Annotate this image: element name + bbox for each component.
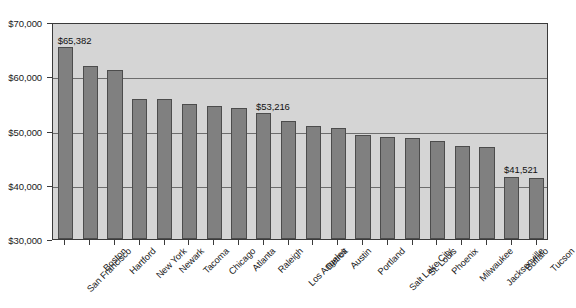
x-axis-tick-label: Hartford [128, 246, 158, 276]
x-axis-tick-mark [387, 240, 388, 245]
y-axis-tick-label: $60,000 [8, 72, 42, 83]
y-axis-tick-mark [47, 240, 52, 241]
bar[interactable] [331, 128, 346, 239]
x-axis-tick-mark [436, 240, 437, 245]
bar[interactable] [380, 137, 395, 239]
bar[interactable] [405, 138, 420, 239]
bar[interactable] [430, 141, 445, 239]
x-axis-tick-label: Detroit [324, 246, 350, 272]
bar-value-label: $41,521 [504, 164, 538, 175]
x-axis-tick-mark [188, 240, 189, 245]
x-axis-tick-mark [114, 240, 115, 245]
x-axis-tick-mark [337, 240, 338, 245]
bar[interactable] [355, 135, 370, 239]
bar-value-label: $65,382 [58, 35, 92, 46]
bar[interactable] [231, 108, 246, 239]
x-axis-tick-mark [461, 240, 462, 245]
x-axis-tick-mark [213, 240, 214, 245]
x-axis-tick-mark [362, 240, 363, 245]
x-axis-tick-mark [486, 240, 487, 245]
bar[interactable] [107, 70, 122, 239]
x-axis-tick-mark [536, 240, 537, 245]
y-axis-tick-label: $40,000 [8, 180, 42, 191]
bar[interactable] [306, 126, 321, 239]
bar[interactable] [83, 66, 98, 239]
bar[interactable] [479, 147, 494, 239]
x-axis-tick-mark [263, 240, 264, 245]
x-axis-tick-label: Portland [376, 246, 407, 277]
x-axis-tick-mark [511, 240, 512, 245]
y-axis-tick-label: $30,000 [8, 235, 42, 246]
bars-layer [53, 24, 547, 239]
bar[interactable] [157, 99, 172, 240]
bar[interactable] [455, 146, 470, 239]
bar-value-label: $53,216 [256, 101, 290, 112]
bar[interactable] [504, 177, 519, 240]
bar[interactable] [58, 47, 73, 239]
x-axis-tick-mark [164, 240, 165, 245]
y-axis-tick-label: $50,000 [8, 126, 42, 137]
x-axis-tick-mark [312, 240, 313, 245]
x-axis-tick-label: Tucson [548, 246, 576, 274]
bar[interactable] [182, 104, 197, 239]
bar[interactable] [207, 106, 222, 239]
x-axis-tick-mark [89, 240, 90, 245]
bar[interactable] [132, 99, 147, 240]
x-axis-tick-mark [412, 240, 413, 245]
x-axis: San FranciscoBostonHartfordNew YorkNewar… [52, 246, 548, 308]
x-axis-tick-mark [139, 240, 140, 245]
y-axis: $70,000$60,000$50,000$40,000$30,000 [0, 0, 52, 308]
x-axis-tick-mark [288, 240, 289, 245]
x-axis-tick-mark [238, 240, 239, 245]
x-axis-tick-label: Tacoma [202, 246, 232, 276]
bar[interactable] [256, 113, 271, 239]
x-axis-tick-label: Austin [349, 246, 374, 271]
bar[interactable] [529, 178, 544, 239]
y-axis-tick-label: $70,000 [8, 18, 42, 29]
plot-area [52, 23, 548, 240]
x-axis-tick-label: Raleigh [276, 246, 305, 275]
x-axis-tick-mark [64, 240, 65, 245]
bar[interactable] [281, 121, 296, 239]
